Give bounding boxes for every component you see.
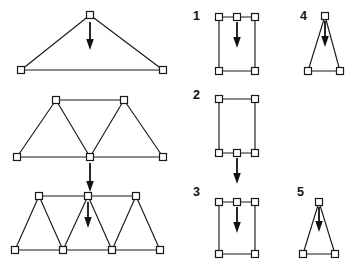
truss-member xyxy=(112,196,136,250)
truss-joint xyxy=(18,67,25,74)
truss-joint xyxy=(60,247,67,254)
truss-joint xyxy=(216,68,223,75)
truss-joint xyxy=(332,251,339,258)
load-arrow-head xyxy=(315,221,323,232)
truss-member xyxy=(124,100,163,157)
truss-member xyxy=(21,15,90,70)
load-case-4: 4 xyxy=(300,9,344,75)
truss-member xyxy=(325,16,340,71)
truss-joint xyxy=(36,193,43,200)
truss-member xyxy=(56,100,90,157)
truss-joint xyxy=(109,247,116,254)
load-arrow-head xyxy=(86,181,94,192)
truss-truss-b xyxy=(14,97,167,193)
case-structure-2 xyxy=(216,96,259,185)
truss-joint xyxy=(216,14,223,21)
truss-joint xyxy=(322,13,329,20)
load-arrow xyxy=(84,202,92,228)
load-case-5: 5 xyxy=(297,185,339,258)
truss-joint xyxy=(87,154,94,161)
truss-joint xyxy=(252,251,259,258)
truss-joint xyxy=(252,14,259,21)
truss-joint xyxy=(160,67,167,74)
load-arrow-head xyxy=(84,217,92,228)
load-case-2: 2 xyxy=(193,88,259,184)
truss-joint xyxy=(300,251,307,258)
truss-member xyxy=(308,16,325,71)
truss-joint xyxy=(133,193,140,200)
truss-diagram-figure: 12345 xyxy=(0,0,347,270)
load-arrow xyxy=(86,163,94,192)
truss-joint xyxy=(252,199,259,206)
load-arrow-head xyxy=(233,173,241,184)
numbered-load-cases-group: 12345 xyxy=(193,9,344,258)
truss-member xyxy=(39,196,63,250)
load-case-1: 1 xyxy=(193,9,259,75)
truss-joint xyxy=(53,97,60,104)
truss-joint xyxy=(216,199,223,206)
truss-joint xyxy=(316,199,323,206)
truss-member xyxy=(136,196,160,250)
truss-joint xyxy=(305,68,312,75)
truss-joint xyxy=(12,247,19,254)
truss-truss-c xyxy=(12,193,164,254)
truss-joint xyxy=(234,14,241,21)
truss-joint xyxy=(252,96,259,103)
case-structure-1 xyxy=(216,14,259,75)
case-structure-4 xyxy=(305,13,344,75)
case-structure-3 xyxy=(216,199,259,258)
truss-member xyxy=(303,202,319,254)
case-structure-5 xyxy=(300,199,339,258)
truss-member xyxy=(15,196,39,250)
truss-joint xyxy=(234,150,241,157)
truss-member xyxy=(90,100,124,157)
load-arrow xyxy=(233,207,241,233)
load-arrow xyxy=(233,158,241,184)
case-number-label-4: 4 xyxy=(300,9,307,23)
diagram-canvas: 12345 xyxy=(0,0,347,270)
truss-member xyxy=(90,15,163,70)
load-arrow-head xyxy=(233,37,241,48)
case-number-label-2: 2 xyxy=(193,88,200,102)
truss-joint xyxy=(216,150,223,157)
load-arrow-head xyxy=(321,36,329,47)
truss-joint xyxy=(160,154,167,161)
truss-member xyxy=(88,196,112,250)
load-arrow xyxy=(86,22,94,50)
case-number-label-5: 5 xyxy=(297,185,304,199)
truss-joint xyxy=(121,97,128,104)
truss-joint xyxy=(87,12,94,19)
truss-joint xyxy=(85,193,92,200)
truss-joint xyxy=(157,247,164,254)
truss-truss-a xyxy=(18,12,167,74)
truss-member xyxy=(63,196,88,250)
truss-joint xyxy=(337,68,344,75)
load-arrow-head xyxy=(233,222,241,233)
large-truss-examples-group xyxy=(12,12,167,254)
case-number-label-1: 1 xyxy=(193,9,200,23)
truss-member xyxy=(17,100,56,157)
truss-joint xyxy=(234,199,241,206)
load-arrow xyxy=(233,22,241,48)
truss-member xyxy=(319,202,335,254)
truss-joint xyxy=(14,154,21,161)
truss-joint xyxy=(216,96,223,103)
truss-joint xyxy=(252,150,259,157)
load-arrow-head xyxy=(86,39,94,50)
load-case-3: 3 xyxy=(193,185,259,258)
case-number-label-3: 3 xyxy=(193,185,200,199)
truss-joint xyxy=(252,68,259,75)
truss-joint xyxy=(216,251,223,258)
